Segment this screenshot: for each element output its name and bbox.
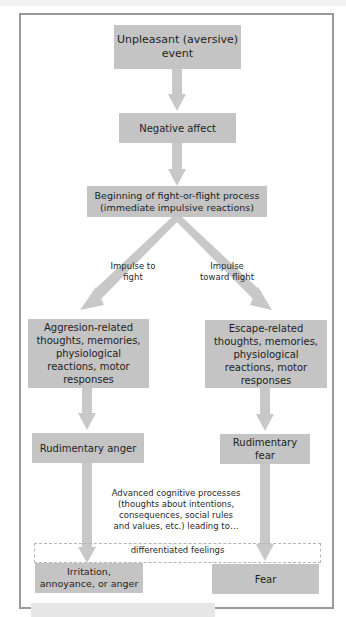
label-text: Impulse toward flight [200, 261, 254, 282]
label-differentiated-feelings: differentiated feelings [34, 545, 321, 555]
label-impulse-fight: Impulse to fight [108, 261, 158, 283]
node-rudimentary-anger: Rudimentary anger [32, 433, 144, 463]
node-escape-related: Escape-related thoughts, memories, physi… [205, 320, 327, 388]
node-irritation-anger: Irritation, annoyance, or anger [35, 563, 143, 593]
label-advanced-cognitive: Advanced cognitive processes (thoughts a… [110, 488, 242, 532]
node-label: Rudimentary anger [40, 442, 137, 455]
node-label: Aggresion-related thoughts, memories, ph… [31, 321, 146, 386]
node-label: Negative affect [139, 122, 216, 135]
node-label: Unpleasant (aversive) event [117, 33, 238, 61]
node-label: Irritation, annoyance, or anger [38, 566, 140, 590]
node-label: Fear [255, 573, 277, 586]
node-fight-or-flight: Beginning of fight-or-flight process (im… [87, 186, 267, 217]
node-unpleasant-event: Unpleasant (aversive) event [114, 25, 241, 69]
bottom-caption-bar [31, 603, 215, 617]
node-label: Rudimentary fear [223, 436, 307, 462]
node-negative-affect: Negative affect [119, 113, 236, 143]
label-text: Impulse to fight [111, 261, 156, 282]
label-text: Advanced cognitive processes (thoughts a… [112, 488, 241, 531]
node-aggression-related: Aggresion-related thoughts, memories, ph… [28, 319, 149, 388]
node-label: Escape-related thoughts, memories, physi… [208, 322, 324, 387]
label-impulse-flight: Impulse toward flight [196, 261, 258, 283]
node-rudimentary-fear: Rudimentary fear [220, 434, 310, 464]
node-fear: Fear [212, 564, 319, 594]
label-text: differentiated feelings [131, 545, 225, 555]
node-label: Beginning of fight-or-flight process (im… [90, 190, 264, 214]
